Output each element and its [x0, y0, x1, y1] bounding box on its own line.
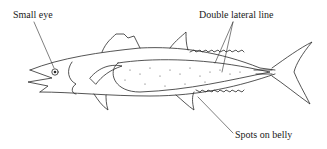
fish-second-dorsal-fin: [170, 32, 188, 50]
leader-lateral-line-1: [215, 22, 233, 63]
fish-mouth: [28, 70, 52, 92]
fish-illustration: [0, 0, 327, 149]
leader-small-eye: [34, 22, 54, 68]
leader-spots-on-belly: [198, 97, 233, 133]
fish-body-top-outline: [30, 48, 275, 70]
fish-pectoral-fin: [90, 65, 122, 84]
fish-dorsal-finlets: [190, 50, 244, 52]
fish-pelvic-fin: [94, 94, 108, 110]
fish-tail: [272, 42, 312, 104]
label-spots-on-belly: Spots on belly: [235, 130, 292, 140]
fish-diagram: Small eye Double lateral line Spots on b…: [0, 0, 327, 149]
fish-belly-panel: [113, 60, 270, 92]
label-double-lateral-line: Double lateral line: [199, 10, 273, 20]
fish-gill: [69, 62, 76, 94]
belly-spots: [124, 67, 240, 86]
fish-first-dorsal-fin: [102, 34, 140, 52]
label-small-eye: Small eye: [13, 10, 53, 20]
